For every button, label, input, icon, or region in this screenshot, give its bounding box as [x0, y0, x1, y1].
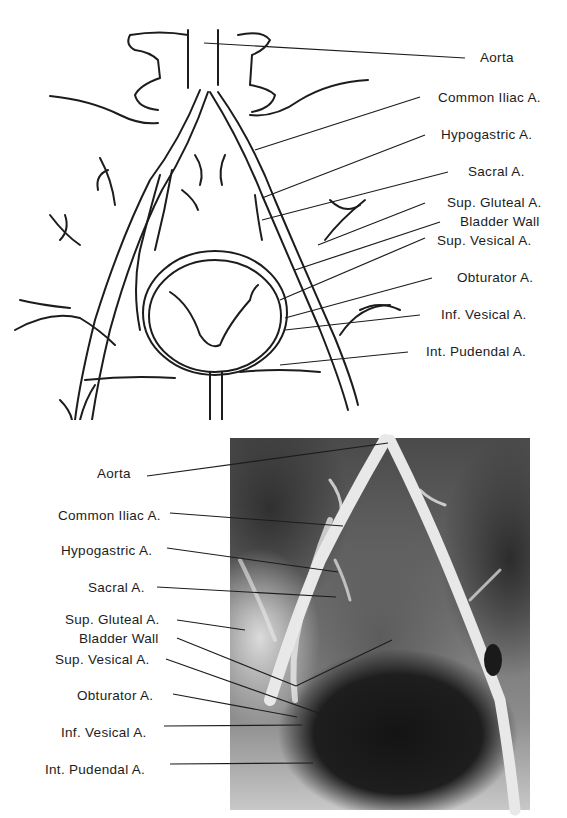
anatomical-drawing: Aorta Common Iliac A. Hypogastric A. Sac…: [0, 0, 567, 420]
radiograph-image: [230, 438, 530, 810]
xray-label-sup-gluteal: Sup. Gluteal A.: [65, 612, 160, 627]
xray-label-hypogastric: Hypogastric A.: [61, 543, 152, 558]
leader-common-iliac: [255, 97, 420, 150]
xray-label-inf-vesical: Inf. Vesical A.: [61, 725, 147, 740]
label-bladder-wall: Bladder Wall: [460, 214, 540, 229]
leader-aorta: [204, 43, 465, 58]
xray-label-sacral: Sacral A.: [88, 580, 145, 595]
label-sup-gluteal: Sup. Gluteal A.: [447, 195, 542, 210]
label-sup-vesical: Sup. Vesical A.: [437, 233, 532, 248]
xray-label-int-pudendal: Int. Pudendal A.: [45, 762, 145, 777]
xray-label-sup-vesical: Sup. Vesical A.: [55, 652, 150, 667]
label-hypogastric: Hypogastric A.: [441, 127, 532, 142]
label-obturator: Obturator A.: [457, 270, 533, 285]
xray-label-common-iliac: Common Iliac A.: [58, 508, 161, 523]
label-sacral: Sacral A.: [468, 164, 525, 179]
label-inf-vesical: Inf. Vesical A.: [441, 307, 527, 322]
xray-label-aorta: Aorta: [97, 466, 131, 481]
leader-hypogastric: [262, 135, 425, 198]
leader-sup-gluteal: [318, 203, 425, 245]
label-aorta: Aorta: [480, 50, 514, 65]
xray-label-bladder-wall: Bladder Wall: [79, 631, 159, 646]
leader-inf-vesical: [285, 315, 420, 330]
label-common-iliac: Common Iliac A.: [438, 90, 541, 105]
leader-sup-vesical: [280, 238, 425, 300]
label-int-pudendal: Int. Pudendal A.: [426, 344, 526, 359]
xray-label-obturator: Obturator A.: [77, 688, 153, 703]
leader-sacral: [262, 172, 448, 220]
